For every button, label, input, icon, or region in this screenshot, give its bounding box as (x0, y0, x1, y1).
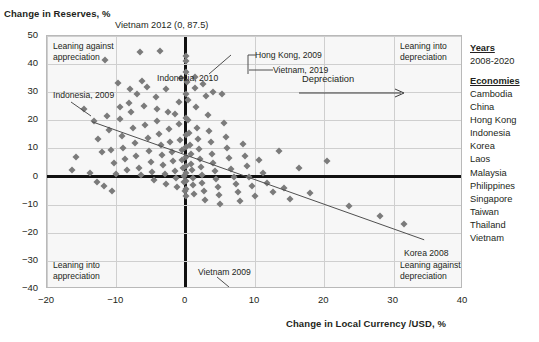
y-tick-label: 20 (4, 113, 38, 124)
legend-spacer (470, 68, 538, 75)
y-tick-label: 50 (4, 29, 38, 40)
plot-area: Leaning against appreciation Leaning int… (46, 35, 462, 288)
quadrant-caption-leaning-against-depreciation: Leaning against depreciation (400, 260, 461, 282)
y-axis-title: Change in Reserves, % (4, 8, 111, 19)
y-tick-label: 0 (4, 170, 38, 181)
caption-line-2: depreciation (400, 271, 461, 282)
x-tick-label: 40 (442, 294, 482, 305)
caption-line-1: Leaning against (53, 41, 114, 52)
legend-economy-item: Malaysia (470, 167, 538, 180)
legend-economy-item: China (470, 101, 538, 114)
caption-line-2: appreciation (53, 52, 114, 63)
x-tick-label: 30 (373, 294, 413, 305)
y-tick-label: 40 (4, 57, 38, 68)
x-tick-label: 20 (303, 294, 343, 305)
caption-line-2: appreciation (53, 271, 100, 282)
legend-economy-item: Laos (470, 153, 538, 166)
x-tick-label: 0 (165, 294, 205, 305)
quadrant-caption-leaning-against-appreciation: Leaning against appreciation (53, 41, 114, 63)
annotation-korea-2008: Korea 2008 (404, 248, 448, 259)
legend-panel: Years 2008-2020 Economies CambodiaChinaH… (470, 42, 538, 245)
legend-economy-item: Korea (470, 140, 538, 153)
caption-line-1: Leaning into (53, 260, 100, 271)
legend-economy-item: Singapore (470, 193, 538, 206)
annotation-indonesia-2009-leader (69, 100, 99, 120)
legend-economy-item: Taiwan (470, 206, 538, 219)
caption-line-1: Leaning into (400, 41, 447, 52)
annotation-vietnam-2019-leader (245, 64, 277, 76)
x-axis-title: Change in Local Currency /USD, % (286, 318, 446, 329)
legend-economy-item: Indonesia (470, 127, 538, 140)
chart-root: Change in Reserves, % Change in Local Cu… (0, 0, 539, 342)
caption-line-2: depreciation (400, 52, 447, 63)
y-tick-label: −30 (4, 254, 38, 265)
legend-economy-item: Philippines (470, 180, 538, 193)
legend-economy-item: Cambodia (470, 88, 538, 101)
y-tick-label: 30 (4, 85, 38, 96)
annotation-hong-kong-2009: Hong Kong, 2009 (255, 50, 322, 61)
x-tick-label: −20 (26, 294, 66, 305)
annotation-vietnam-2019: Vietnam, 2019 (273, 65, 328, 76)
legend-years-value: 2008-2020 (470, 55, 538, 68)
x-tick-label: −10 (95, 294, 135, 305)
legend-economy-item: Thailand (470, 219, 538, 232)
y-tick-label: −20 (4, 226, 38, 237)
y-tick-label: −10 (4, 198, 38, 209)
y-tick-label: −40 (4, 282, 38, 293)
legend-economies-list: CambodiaChinaHong KongIndonesiaKoreaLaos… (470, 88, 538, 245)
annotation-vietnam-2012: Vietnam 2012 (0, 87.5) (115, 20, 208, 30)
annotation-vietnam-2009-leader (215, 276, 237, 288)
legend-economy-item: Vietnam (470, 232, 538, 245)
quadrant-caption-leaning-into-depreciation: Leaning into depreciation (400, 41, 447, 63)
y-tick-label: 10 (4, 141, 38, 152)
x-tick-label: 10 (234, 294, 274, 305)
caption-line-1: Leaning against (400, 260, 461, 271)
depreciation-arrow-icon (297, 88, 412, 100)
quadrant-caption-leaning-into-appreciation: Leaning into appreciation (53, 260, 100, 282)
legend-economy-item: Hong Kong (470, 114, 538, 127)
annotation-indonesia-2010-leader (201, 52, 235, 78)
legend-years-heading: Years (470, 42, 538, 55)
legend-economies-heading: Economies (470, 75, 538, 88)
